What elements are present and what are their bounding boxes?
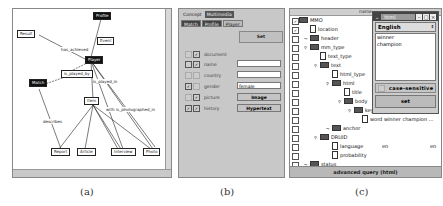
collapse-icon[interactable]: ⚲ [338,99,343,104]
node-interview[interactable]: Interview [111,148,136,156]
tree-node-text-type[interactable]: text_type [320,52,352,60]
row-checkbox[interactable] [292,63,299,70]
row-checkbox[interactable] [292,90,299,97]
row-checkbox[interactable] [292,36,299,43]
tree-label: body [355,98,367,104]
node-photo[interactable]: Photo [143,148,160,156]
row-checkbox[interactable] [292,108,299,115]
folder-icon [354,107,363,113]
tree-node-location[interactable]: location [310,25,338,33]
language-select[interactable]: English ⇕ [375,22,436,32]
tree-node-mm-type[interactable]: ⚲mm_type [304,43,344,51]
tree-node-html[interactable]: ⚲html [326,79,354,87]
tab-player[interactable]: Player [223,20,243,27]
checkbox-gender-a[interactable]: ✓ [185,83,192,90]
popup-titlebar[interactable]: ⌄ html – □ × [373,12,438,21]
folder-icon [320,62,329,68]
hypertext-button[interactable]: Hypertext [237,104,281,112]
checkbox-name[interactable]: ✓ [193,61,200,68]
node-player[interactable]: Player [85,56,103,64]
node-article[interactable]: Article [77,148,96,156]
node-event[interactable]: Event [97,37,114,45]
collapse-icon[interactable]: ⚲ [348,108,353,113]
node-result[interactable]: Result [17,30,35,38]
tree-node-probability[interactable]: probability [332,151,367,159]
term: champion [377,41,435,48]
row-checkbox[interactable]: ✓ [292,27,299,34]
checkbox-document[interactable]: ✓ [193,51,200,58]
popup-set-button[interactable]: set [375,95,436,108]
tree-node-title[interactable]: title [344,88,362,96]
checkbox-country-a[interactable] [185,72,192,79]
tree-node-html-type[interactable]: html_type [332,70,365,78]
name-input[interactable] [237,60,281,67]
collapse-icon[interactable]: ⚲ [314,135,319,140]
field-label: history [204,106,219,111]
close-icon[interactable]: × [430,14,436,20]
tree-panel: name ✓ MMO ✓ location ⊸header ⚲mm_type t… [289,8,442,178]
caption-b: (b) [220,186,234,197]
row-checkbox[interactable] [292,81,299,88]
checkbox-country[interactable] [193,72,200,79]
vertical-scrollbar[interactable] [165,9,171,171]
checkbox-document-a[interactable] [185,51,192,58]
case-sensitive-checkbox[interactable] [378,85,385,92]
field-row-name: ✓ name [185,60,217,68]
tab-multimedia[interactable]: Multimedia [205,11,234,18]
case-sensitive-toggle[interactable]: case-sensitive [375,83,436,93]
node-is-played-by[interactable]: is_played_by [61,70,93,78]
collapse-icon[interactable]: ⚲ [304,45,309,50]
tree-node-language[interactable]: language [332,142,363,150]
edge-label-is-played-in: is_played_in [93,79,117,84]
minimize-icon[interactable]: – [416,14,422,20]
row-checkbox[interactable] [292,72,299,79]
node-profile[interactable]: Profile [93,12,111,20]
document-icon [362,115,368,123]
tree-node-text[interactable]: ⚲text [314,61,341,69]
menu-chevron-icon[interactable]: ⌄ [375,14,379,20]
checkbox-gender[interactable] [193,83,200,90]
row-checkbox[interactable] [292,45,299,52]
tree-label: mm_type [321,44,344,50]
tab-match[interactable]: Match [181,20,201,27]
checkbox-picture-a[interactable] [185,94,192,101]
row-checkbox[interactable] [292,153,299,160]
row-checkbox[interactable]: ✓ [292,18,299,25]
row-checkbox[interactable] [292,117,299,124]
document-icon [310,25,316,33]
image-button[interactable]: Image [237,93,281,101]
expand-icon[interactable]: ⊸ [304,36,309,41]
collapse-icon[interactable]: ⚲ [326,81,331,86]
tree-node-mmo[interactable]: MMO [299,16,323,24]
row-checkbox[interactable] [292,99,299,106]
expand-icon[interactable]: ⊸ [326,126,331,131]
checkbox-name-a[interactable] [185,61,192,68]
checkbox-history-a[interactable]: ✓ [185,105,192,112]
tab-profile[interactable]: Profile [202,20,222,27]
tree-label: MMO [310,17,323,23]
node-item[interactable]: Item [84,97,99,105]
tree-node-druid[interactable]: ⚲DRUID [314,133,347,141]
checkbox-picture[interactable]: ✓ [193,94,200,101]
set-button[interactable]: Set [239,31,283,43]
tree-node-anchor[interactable]: ⊸anchor [326,124,360,132]
country-input[interactable] [237,71,281,78]
row-checkbox[interactable] [292,126,299,133]
collapse-icon[interactable]: ⚲ [314,63,319,68]
horizontal-scrollbar[interactable] [13,169,171,177]
tree-node-header[interactable]: ⊸header [304,34,339,42]
spinner-icon[interactable]: ⇕ [431,23,434,31]
row-checkbox[interactable] [292,54,299,61]
row-checkbox[interactable] [292,144,299,151]
tree-node-body[interactable]: ⚲body [338,97,367,105]
tree-node-word[interactable]: word winner champion ... [362,115,433,123]
terms-textarea[interactable]: winner champion [375,33,436,81]
tab-concept[interactable]: Concept [181,11,204,18]
node-report[interactable]: Report [51,148,70,156]
tree-label: word winner champion ... [370,116,433,122]
checkbox-history[interactable]: ✓ [193,105,200,112]
maximize-icon[interactable]: □ [423,14,429,20]
row-checkbox[interactable] [292,135,299,142]
node-match[interactable]: Match [29,79,47,87]
gender-input[interactable]: female [237,82,281,89]
